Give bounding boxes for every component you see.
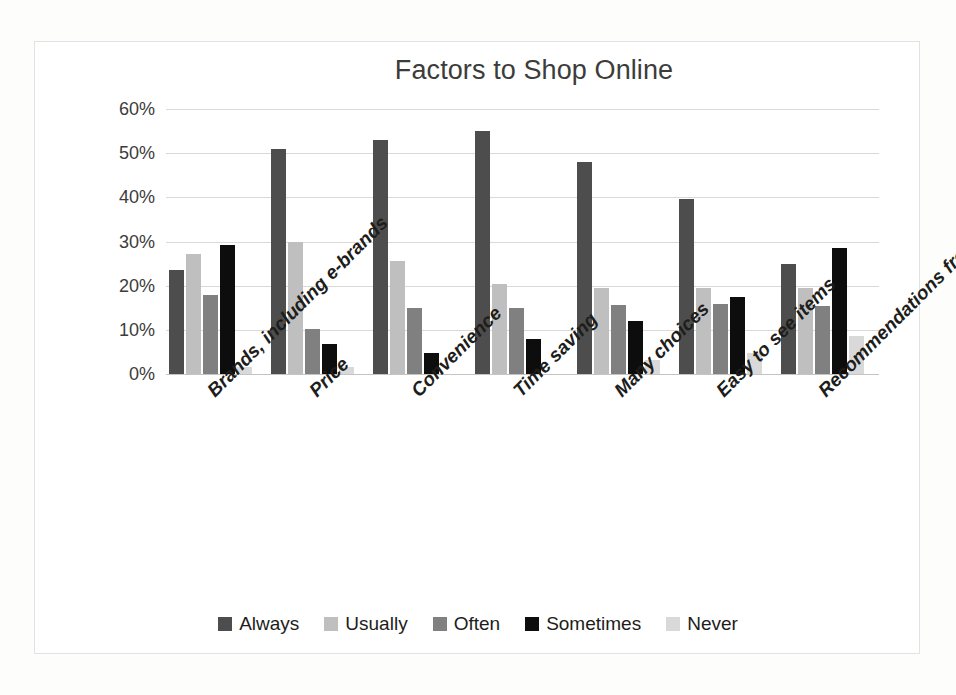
bar[interactable] [373, 140, 388, 374]
chart-frame: Factors to Shop Online 60%50%40%30%20%10… [34, 41, 920, 654]
bar[interactable] [186, 254, 201, 374]
bar[interactable] [305, 329, 320, 374]
y-axis: 60%50%40%30%20%10%0% [95, 109, 161, 374]
legend-swatch-icon [433, 617, 447, 631]
legend-label: Sometimes [546, 613, 641, 635]
bar[interactable] [169, 270, 184, 374]
legend-item[interactable]: Always [218, 613, 299, 635]
legend-item[interactable]: Sometimes [525, 613, 641, 635]
legend-label: Usually [345, 613, 407, 635]
legend-item[interactable]: Usually [324, 613, 407, 635]
legend-label: Often [454, 613, 500, 635]
y-axis-tick-label: 20% [119, 275, 155, 296]
y-axis-tick-label: 60% [119, 99, 155, 120]
legend-label: Never [687, 613, 738, 635]
chart-title-text: Factors to Shop Online [395, 55, 673, 85]
bar[interactable] [679, 199, 694, 374]
bar[interactable] [390, 261, 405, 374]
bar-group [370, 109, 472, 374]
bar[interactable] [509, 308, 524, 374]
bar[interactable] [203, 295, 218, 375]
legend-label: Always [239, 613, 299, 635]
chart-title: Factors to Shop Online [35, 55, 921, 86]
legend-swatch-icon [324, 617, 338, 631]
legend-item[interactable]: Often [433, 613, 500, 635]
legend-swatch-icon [666, 617, 680, 631]
y-axis-tick-label: 10% [119, 319, 155, 340]
y-axis-tick-label: 40% [119, 187, 155, 208]
legend-item[interactable]: Never [666, 613, 738, 635]
y-axis-tick-label: 50% [119, 143, 155, 164]
bar[interactable] [594, 288, 609, 374]
legend-swatch-icon [525, 617, 539, 631]
screenshot-page: Factors to Shop Online 60%50%40%30%20%10… [0, 0, 956, 695]
bar-group [166, 109, 268, 374]
chart-legend: AlwaysUsuallyOftenSometimesNever [35, 613, 921, 635]
bar[interactable] [815, 306, 830, 374]
bar[interactable] [407, 308, 422, 374]
y-axis-tick-label: 0% [129, 364, 155, 385]
bar[interactable] [713, 304, 728, 374]
bar[interactable] [611, 305, 626, 374]
y-axis-tick-label: 30% [119, 231, 155, 252]
legend-swatch-icon [218, 617, 232, 631]
